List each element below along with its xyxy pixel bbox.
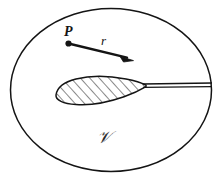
diagram-canvas: [0, 0, 222, 181]
point-p-dot: [65, 40, 71, 46]
control-volume-label: 𝒱: [97, 129, 111, 146]
figure-container: P r 𝒱: [0, 0, 222, 181]
point-p-label: P: [64, 25, 73, 39]
vector-shaft: [69, 44, 128, 58]
point-p-marker: [65, 40, 71, 46]
branch-cut-upper-line: [143, 83, 212, 84]
branch-cut-slit: [143, 83, 212, 87]
position-vector-label: r: [101, 34, 106, 47]
airfoil-cross-section: [50, 70, 155, 115]
branch-cut-lower-line: [143, 87, 212, 88]
